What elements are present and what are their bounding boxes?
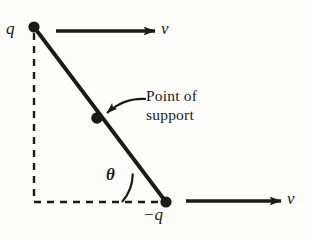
label-charge-positive: q — [6, 20, 15, 37]
support-pointer-arrow — [107, 99, 146, 113]
label-point-of-support-line2: support — [146, 107, 197, 123]
label-point-of-support-line1: Point of — [146, 87, 197, 104]
physics-diagram: q v θ −q v Point of support — [0, 0, 309, 243]
label-velocity-bottom: v — [287, 190, 295, 207]
label-velocity-top: v — [161, 20, 169, 37]
charge-dot-positive — [28, 21, 39, 32]
label-point-of-support: Point of support — [146, 88, 197, 122]
label-charge-negative: −q — [143, 206, 163, 223]
angle-arc — [122, 173, 133, 202]
label-angle-theta: θ — [106, 166, 115, 183]
support-dot — [91, 112, 103, 124]
